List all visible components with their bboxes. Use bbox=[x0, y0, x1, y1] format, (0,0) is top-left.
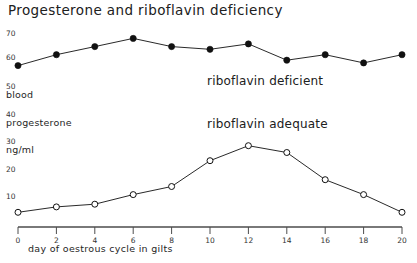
chart-figure: Progesterone and riboflavin deficiency 7… bbox=[0, 0, 417, 263]
x-tick-label-0: 0 bbox=[16, 236, 21, 245]
data-point-marker bbox=[284, 150, 290, 156]
x-tick-label-20: 20 bbox=[397, 236, 407, 245]
data-point-marker bbox=[130, 35, 136, 41]
x-tick-label-18: 18 bbox=[359, 236, 369, 245]
series-line-riboflavin-adequate bbox=[18, 146, 402, 213]
data-point-marker bbox=[361, 192, 367, 198]
x-axis-ticks bbox=[18, 227, 402, 234]
data-point-marker bbox=[92, 201, 98, 207]
x-axis bbox=[18, 227, 402, 234]
data-point-marker bbox=[169, 44, 175, 50]
data-point-marker bbox=[245, 41, 251, 47]
data-point-marker bbox=[322, 52, 328, 58]
data-point-marker bbox=[130, 192, 136, 198]
data-point-marker bbox=[399, 209, 405, 215]
data-point-marker bbox=[92, 44, 98, 50]
data-point-marker bbox=[53, 204, 59, 210]
data-point-marker bbox=[207, 46, 213, 52]
x-tick-label-16: 16 bbox=[320, 236, 330, 245]
data-point-marker bbox=[207, 158, 213, 164]
data-point-marker bbox=[361, 60, 367, 66]
data-point-marker bbox=[399, 52, 405, 58]
x-tick-label-10: 10 bbox=[205, 236, 215, 245]
data-point-marker bbox=[15, 209, 21, 215]
data-point-marker bbox=[15, 63, 21, 69]
x-tick-label-14: 14 bbox=[282, 236, 292, 245]
plot-area bbox=[0, 0, 417, 263]
series-markers-riboflavin-deficient bbox=[15, 35, 405, 68]
data-point-marker bbox=[53, 52, 59, 58]
x-tick-label-12: 12 bbox=[244, 236, 254, 245]
data-point-marker bbox=[322, 177, 328, 183]
data-line bbox=[18, 146, 402, 213]
data-point-marker bbox=[169, 184, 175, 190]
data-point-marker bbox=[284, 57, 290, 63]
x-axis-label: day of oestrous cycle in gilts bbox=[28, 243, 173, 254]
series-markers-riboflavin-adequate bbox=[15, 143, 405, 216]
data-point-marker bbox=[245, 143, 251, 149]
